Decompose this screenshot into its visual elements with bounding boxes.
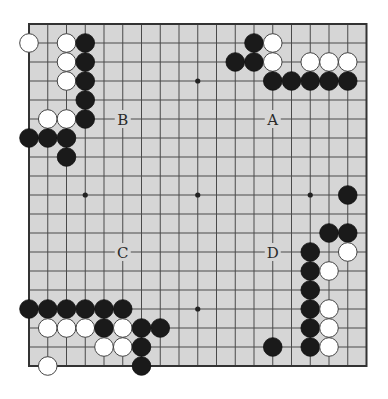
black-stone [301, 281, 320, 300]
black-stone [57, 148, 76, 167]
black-stone [263, 338, 282, 357]
black-stone [76, 91, 95, 110]
white-stone [113, 338, 132, 357]
black-stone [282, 72, 301, 91]
white-stone [320, 262, 339, 281]
position-label-b: B [117, 111, 128, 129]
black-stone [76, 72, 95, 91]
black-stone [320, 72, 339, 91]
go-board-svg: ABCD [0, 0, 388, 399]
black-stone [263, 72, 282, 91]
white-stone [38, 319, 57, 338]
black-stone [76, 110, 95, 129]
black-stone [20, 129, 39, 148]
black-stone [301, 338, 320, 357]
black-stone [95, 300, 114, 319]
black-stone [245, 34, 264, 53]
white-stone [320, 300, 339, 319]
white-stone [320, 319, 339, 338]
star-point [195, 192, 200, 197]
white-stone [263, 34, 282, 53]
black-stone [113, 300, 132, 319]
white-stone [338, 243, 357, 262]
black-stone [320, 224, 339, 243]
white-stone [57, 110, 76, 129]
white-stone [57, 34, 76, 53]
black-stone [76, 34, 95, 53]
black-stone [38, 300, 57, 319]
white-stone [38, 110, 57, 129]
black-stone [57, 300, 76, 319]
black-stone [76, 53, 95, 72]
star-point [195, 306, 200, 311]
white-stone [113, 319, 132, 338]
black-stone [301, 72, 320, 91]
black-stone [226, 53, 245, 72]
black-stone [301, 319, 320, 338]
black-stone [132, 357, 151, 376]
white-stone [57, 319, 76, 338]
position-label-d: D [267, 244, 279, 262]
white-stone [20, 34, 39, 53]
black-stone [301, 300, 320, 319]
white-stone [320, 338, 339, 357]
black-stone [301, 243, 320, 262]
black-stone [20, 300, 39, 319]
black-stone [95, 319, 114, 338]
white-stone [320, 53, 339, 72]
black-stone [132, 319, 151, 338]
white-stone [338, 53, 357, 72]
black-stone [338, 224, 357, 243]
white-stone [57, 53, 76, 72]
black-stone [76, 300, 95, 319]
position-label-c: C [117, 244, 128, 262]
black-stone [338, 186, 357, 205]
black-stone [301, 262, 320, 281]
position-label-a: A [266, 111, 278, 129]
black-stone [38, 129, 57, 148]
star-point [83, 192, 88, 197]
white-stone [301, 53, 320, 72]
black-stone [151, 319, 170, 338]
star-point [195, 78, 200, 83]
white-stone [76, 319, 95, 338]
white-stone [263, 53, 282, 72]
white-stone [57, 72, 76, 91]
black-stone [245, 53, 264, 72]
go-board: ABCD [0, 0, 388, 399]
black-stone [338, 72, 357, 91]
black-stone [57, 129, 76, 148]
black-stone [132, 338, 151, 357]
white-stone [38, 357, 57, 376]
star-point [308, 192, 313, 197]
white-stone [95, 338, 114, 357]
